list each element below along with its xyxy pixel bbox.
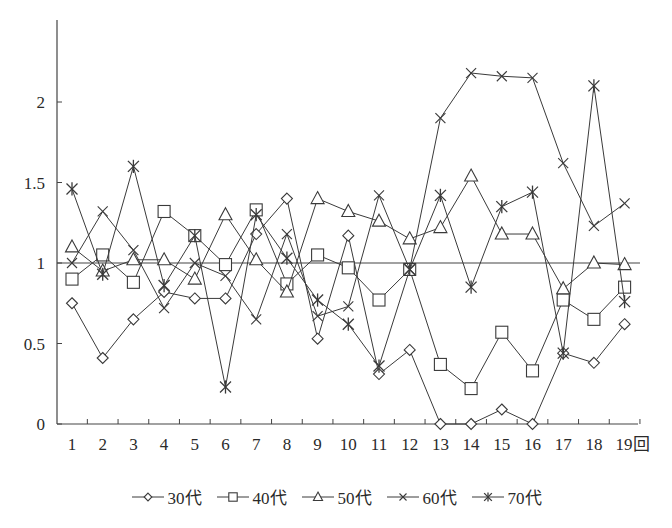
y-tick-label: 0.5: [24, 335, 45, 354]
x-tick-label: 12: [401, 435, 418, 454]
series-60代: [67, 68, 630, 324]
x-tick-label: 9: [313, 435, 322, 454]
x-tick-label: 17: [555, 435, 573, 454]
x-tick-label: 15: [493, 435, 510, 454]
legend-marker-x-icon: [386, 490, 420, 504]
x-tick-label: 19回: [616, 435, 650, 454]
line-chart: 00.511.5212345678910111213141516171819回: [0, 0, 672, 480]
legend-marker-asterisk-icon: [471, 490, 505, 504]
legend-label: 30代: [168, 484, 202, 509]
x-tick-label: 6: [221, 435, 230, 454]
legend: 30代40代50代60代70代: [0, 484, 672, 509]
legend-item: 50代: [301, 484, 372, 509]
x-tick-label: 11: [371, 435, 387, 454]
x-tick-label: 7: [252, 435, 261, 454]
y-tick-label: 1: [37, 254, 46, 273]
x-tick-label: 1: [68, 435, 77, 454]
legend-label: 50代: [338, 484, 372, 509]
legend-item: 40代: [216, 484, 287, 509]
x-tick-label: 14: [463, 435, 481, 454]
x-tick-label: 16: [524, 435, 541, 454]
x-tick-label: 3: [129, 435, 138, 454]
y-tick-label: 0: [37, 415, 46, 434]
legend-item: 70代: [471, 484, 542, 509]
x-tick-label: 2: [98, 435, 107, 454]
y-tick-label: 1.5: [24, 174, 45, 193]
series-30代: [67, 193, 631, 429]
x-tick-label: 18: [585, 435, 602, 454]
legend-marker-triangle-icon: [301, 490, 335, 504]
x-tick-label: 10: [340, 435, 357, 454]
legend-label: 60代: [423, 484, 457, 509]
legend-item: 30代: [131, 484, 202, 509]
legend-label: 70代: [508, 484, 542, 509]
x-tick-label: 5: [191, 435, 200, 454]
x-tick-label: 13: [432, 435, 449, 454]
legend-label: 40代: [253, 484, 287, 509]
x-tick-label: 4: [160, 435, 169, 454]
legend-marker-square-icon: [216, 490, 250, 504]
series-group: [66, 68, 632, 429]
y-tick-label: 2: [37, 93, 46, 112]
legend-marker-diamond-icon: [131, 490, 165, 504]
axes: 00.511.5212345678910111213141516171819回: [24, 20, 650, 454]
legend-item: 60代: [386, 484, 457, 509]
x-tick-label: 8: [283, 435, 292, 454]
